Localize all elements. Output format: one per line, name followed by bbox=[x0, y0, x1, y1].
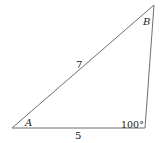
vertex-b-label: B bbox=[142, 16, 150, 27]
side-ac-length: 5 bbox=[75, 130, 81, 141]
angle-c-label: 100° bbox=[121, 119, 144, 130]
triangle-diagram: A B 7 5 100° bbox=[0, 0, 160, 143]
triangle-abc bbox=[12, 5, 154, 128]
side-ab-length: 7 bbox=[76, 59, 82, 70]
vertex-a-label: A bbox=[24, 117, 32, 128]
